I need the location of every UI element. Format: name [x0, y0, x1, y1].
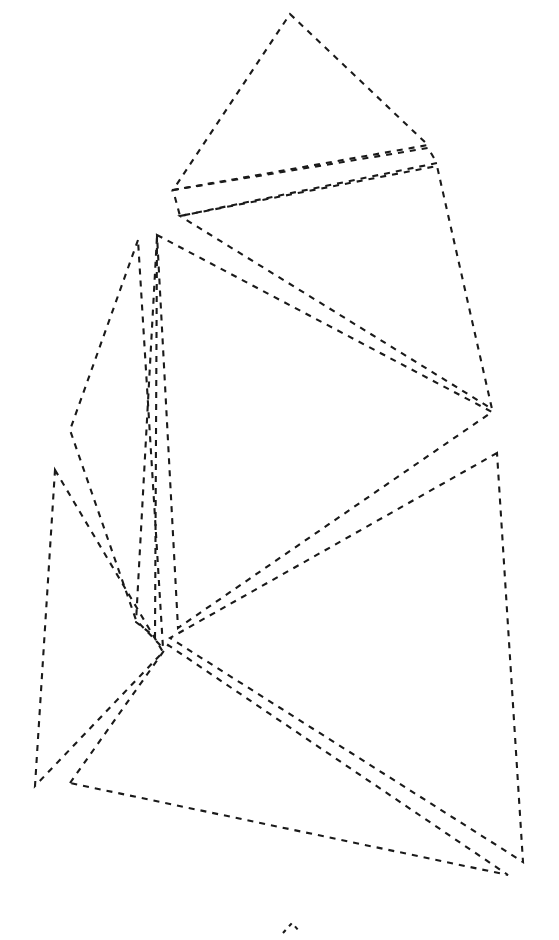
figure-canvas — [0, 0, 559, 940]
dashed-polygon-figure — [0, 0, 559, 940]
